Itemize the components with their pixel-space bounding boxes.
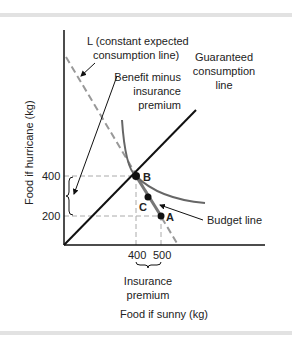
y-tick-400: 400 (42, 170, 60, 182)
benefit-arrow (74, 76, 117, 194)
label-c: C (139, 201, 147, 213)
label-b: B (143, 171, 151, 183)
point-a (158, 213, 165, 220)
premium-brace (136, 262, 161, 268)
budget-line-label: Budget line (207, 214, 262, 226)
premium-label-2: premium (127, 289, 170, 301)
benefit-label-2: insurance (133, 85, 181, 97)
label-a: A (166, 211, 174, 223)
guaranteed-label-3: line (215, 79, 232, 91)
x-axis-label: Food if sunny (kg) (120, 308, 208, 320)
guaranteed-label-1: Guaranteed (195, 51, 253, 63)
y-tick-200: 200 (42, 210, 60, 222)
benefit-brace (66, 177, 73, 215)
x-tick-500: 500 (153, 249, 171, 261)
guaranteed-consumption-line (64, 110, 196, 245)
premium-label-1: Insurance (124, 275, 172, 287)
point-c (145, 194, 152, 201)
benefit-label-1: Benefit minus (114, 71, 181, 83)
y-axis-label: Food if hurricane (kg) (23, 100, 35, 205)
benefit-label-3: premium (138, 99, 181, 111)
insurance-diagram: B C A 400 200 400 500 Food if hurricane … (0, 0, 292, 346)
x-tick-400: 400 (128, 249, 146, 261)
l-label-1: L (constant expected (87, 35, 189, 47)
l-label-2: consumption line) (93, 49, 179, 61)
guaranteed-label-2: consumption (193, 65, 255, 77)
l-arrow (81, 63, 95, 76)
point-b (132, 172, 140, 180)
indifference-curve (122, 120, 205, 203)
